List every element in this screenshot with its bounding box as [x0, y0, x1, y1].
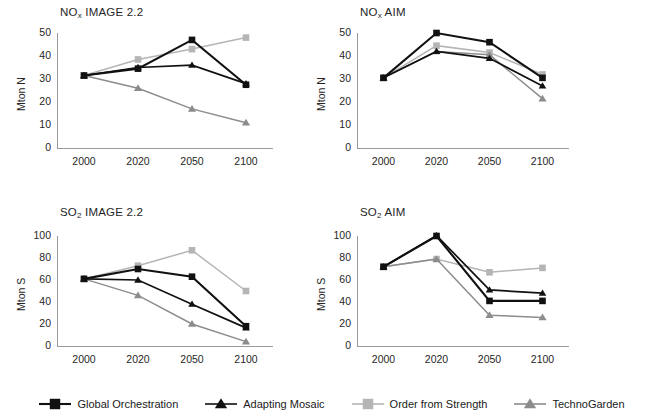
- chart-y-axis-line: [357, 33, 358, 149]
- chart-title-so2-aim: SO2 AIM: [360, 206, 405, 218]
- chart-data-point: [486, 298, 493, 305]
- legend-item-0: Global Orchestration: [38, 397, 178, 411]
- chart-data-point: [380, 263, 388, 269]
- chart-title-base: NO: [360, 6, 378, 18]
- chart-title-nox-aim: NOx AIM: [360, 6, 406, 18]
- chart-data-point: [379, 263, 387, 270]
- chart-ytick: 80: [25, 251, 51, 263]
- chart-series-line: [384, 46, 543, 78]
- chart-data-point: [485, 311, 493, 318]
- chart-data-point: [538, 95, 546, 102]
- chart-xtick: 2000: [359, 155, 409, 167]
- chart-plot-so2-aim: [0, 0, 663, 420]
- chart-xtick: 2020: [412, 155, 462, 167]
- chart-xtick: 2050: [167, 353, 217, 365]
- chart-series-line: [84, 40, 246, 85]
- chart-title-rest: IMAGE 2.2: [82, 6, 143, 18]
- chart-ytick: 20: [325, 95, 351, 107]
- legend-label: TechnoGarden: [552, 399, 624, 410]
- chart-data-point: [433, 256, 440, 263]
- chart-data-point: [80, 72, 88, 78]
- chart-data-point: [242, 324, 250, 330]
- chart-data-point: [539, 71, 546, 78]
- chart-data-point: [243, 323, 250, 330]
- legend-point: [215, 398, 227, 408]
- chart-data-point: [539, 82, 547, 88]
- chart-data-point: [242, 338, 250, 345]
- chart-ytick: 60: [325, 273, 351, 285]
- chart-ytick: 100: [325, 229, 351, 241]
- chart-x-axis-line: [357, 346, 569, 347]
- legend-point: [524, 398, 536, 408]
- chart-title-rest: IMAGE 2.2: [82, 206, 143, 218]
- chart-data-point: [189, 46, 196, 53]
- chart-ytick: 10: [325, 118, 351, 130]
- chart-xtick: 2050: [465, 155, 515, 167]
- chart-title-rest: AIM: [382, 206, 406, 218]
- chart-series-line: [384, 51, 543, 98]
- chart-data-point: [486, 39, 493, 46]
- legend-point: [50, 399, 60, 409]
- chart-data-point: [135, 56, 142, 63]
- chart-ytick: 10: [25, 118, 51, 130]
- chart-ytick: 60: [25, 273, 51, 285]
- chart-ylabel-so2-aim: Mton S: [315, 278, 327, 311]
- chart-data-point: [188, 62, 196, 68]
- chart-data-point: [486, 286, 494, 292]
- chart-title-subscript: 2: [77, 211, 82, 220]
- legend-item-2: Order from Strength: [351, 397, 488, 411]
- chart-data-point: [380, 75, 387, 82]
- legend-point: [362, 399, 372, 409]
- chart-ytick: 20: [325, 317, 351, 329]
- legend-marker-square-icon: [351, 397, 385, 411]
- legend-marker-triangle-icon: [204, 397, 238, 411]
- chart-data-point: [188, 301, 196, 307]
- chart-xtick: 2000: [59, 353, 109, 365]
- chart-data-point: [188, 320, 196, 327]
- chart-data-point: [135, 266, 142, 273]
- chart-ytick: 100: [25, 229, 51, 241]
- chart-title-base: NO: [60, 6, 78, 18]
- legend-label: Order from Strength: [390, 399, 488, 410]
- legend-marker-square-icon: [38, 397, 72, 411]
- chart-ytick: 50: [325, 26, 351, 38]
- legend-label: Adapting Mosaic: [243, 399, 324, 410]
- chart-ytick: 30: [25, 72, 51, 84]
- chart-data-point: [242, 80, 250, 86]
- chart-series-line: [384, 259, 543, 317]
- chart-x-axis-line: [357, 148, 569, 149]
- chart-xtick: 2020: [113, 353, 163, 365]
- chart-ytick: 20: [25, 317, 51, 329]
- chart-xtick: 2050: [465, 353, 515, 365]
- chart-data-point: [189, 37, 196, 44]
- chart-series-line: [384, 259, 543, 272]
- chart-ytick: 0: [325, 141, 351, 153]
- chart-data-point: [81, 276, 88, 283]
- chart-data-point: [380, 74, 388, 80]
- chart-title-so2-image: SO2 IMAGE 2.2: [60, 206, 143, 218]
- chart-panel-so2-aim: SO2 AIMMton S020406080100200020202050210…: [0, 0, 663, 420]
- chart-title-subscript: 2: [377, 211, 382, 220]
- chart-plot-nox-aim: [0, 0, 663, 420]
- chart-data-point: [539, 298, 546, 305]
- chart-title-base: SO: [60, 206, 77, 218]
- chart-ytick: 0: [25, 141, 51, 153]
- chart-data-point: [188, 105, 196, 112]
- chart-xtick: 2100: [518, 353, 568, 365]
- chart-x-axis-line: [57, 148, 273, 149]
- chart-data-point: [486, 49, 493, 56]
- chart-series-line: [84, 250, 246, 291]
- chart-panel-nox-aim: NOx AIMMton N010203040502000202020502100: [0, 0, 663, 420]
- chart-data-point: [379, 74, 387, 81]
- chart-ylabel-nox-image: Mton N: [15, 77, 27, 111]
- chart-xtick: 2100: [221, 155, 271, 167]
- chart-data-point: [80, 275, 88, 281]
- chart-data-point: [433, 30, 440, 37]
- chart-xtick: 2000: [59, 155, 109, 167]
- chart-data-point: [433, 42, 440, 49]
- chart-data-point: [486, 55, 494, 61]
- chart-ytick: 40: [325, 295, 351, 307]
- chart-ytick: 0: [25, 339, 51, 351]
- chart-data-point: [485, 51, 493, 58]
- chart-xtick: 2000: [359, 353, 409, 365]
